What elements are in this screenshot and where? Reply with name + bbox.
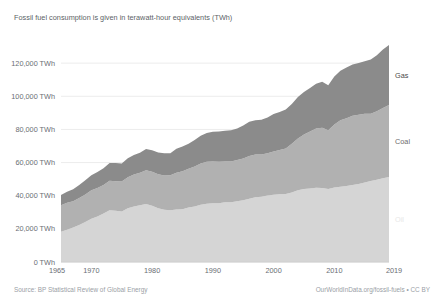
series-label-gas: Gas bbox=[395, 71, 409, 80]
x-axis-tick-label: 2019 bbox=[386, 266, 402, 275]
chart-svg: 0 TWh20,000 TWh40,000 TWh60,000 TWh80,00… bbox=[0, 0, 438, 306]
y-axis-tick-label: 60,000 TWh bbox=[15, 158, 55, 167]
y-axis-tick-label: 100,000 TWh bbox=[11, 92, 55, 101]
x-axis-tick-label: 2010 bbox=[326, 266, 342, 275]
series-label-coal: Coal bbox=[395, 137, 410, 146]
fossil-fuel-area-chart: Fossil fuel consumption is given in tera… bbox=[0, 0, 438, 306]
x-axis-tick-label: 1965 bbox=[49, 266, 65, 275]
chart-attribution[interactable]: OurWorldInData.org/fossil-fuels • CC BY bbox=[316, 286, 430, 293]
x-axis-labels-group: 1965197019801990200020102019 bbox=[49, 266, 402, 275]
series-label-oil: Oil bbox=[395, 215, 404, 224]
x-axis-tick-label: 1990 bbox=[205, 266, 221, 275]
y-axis-tick-label: 80,000 TWh bbox=[15, 125, 55, 134]
y-axis-labels-group: 0 TWh20,000 TWh40,000 TWh60,000 TWh80,00… bbox=[11, 59, 55, 267]
x-axis-tick-label: 1970 bbox=[83, 266, 99, 275]
y-axis-tick-label: 40,000 TWh bbox=[15, 191, 55, 200]
x-axis-tick-label: 2000 bbox=[265, 266, 281, 275]
chart-source: Source: BP Statistical Review of Global … bbox=[14, 286, 147, 293]
stacked-areas-group bbox=[61, 45, 389, 262]
y-axis-tick-label: 120,000 TWh bbox=[11, 59, 55, 68]
x-axis-tick-label: 1980 bbox=[144, 266, 160, 275]
series-inline-labels-group: OilCoalGas bbox=[395, 71, 410, 225]
y-axis-tick-label: 20,000 TWh bbox=[15, 224, 55, 233]
